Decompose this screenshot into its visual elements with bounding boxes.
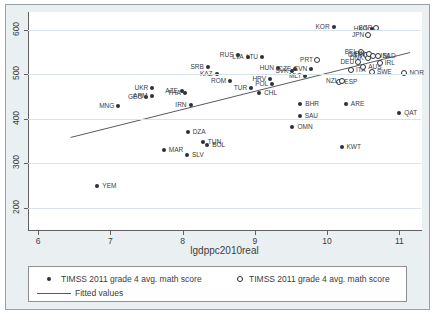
y-tick-mark — [24, 119, 28, 120]
point-label-omn: OMN — [297, 124, 312, 131]
y-tick-label: 300 — [11, 147, 21, 177]
point-label-bol: BOL — [212, 142, 225, 149]
y-tick-mark — [24, 163, 28, 164]
y-tick-mark — [24, 30, 28, 31]
point-label-ukr: UKR — [135, 85, 149, 92]
point-label-irn: IRN — [175, 102, 186, 109]
point-are — [344, 102, 348, 106]
point-label-qat: QAT — [404, 110, 417, 117]
y-gridline — [28, 119, 421, 120]
point-label-lva: LVA — [232, 54, 243, 61]
point-label-nzl: NZL — [326, 78, 338, 85]
y-tick-label: 600 — [11, 14, 21, 44]
point-label-bhr: BHR — [305, 101, 319, 108]
point-label-arm: ARM — [133, 93, 147, 100]
y-tick-label: 200 — [11, 192, 21, 222]
point-kwt — [340, 145, 344, 149]
x-tick-mark — [327, 231, 328, 235]
legend-label-hollow: TIMSS 2011 grade 4 avg. math score — [249, 274, 390, 284]
point-label-esp: ESP — [344, 79, 357, 86]
point-mar — [162, 148, 166, 152]
point-label-tur: TUR — [234, 85, 247, 92]
point-label-kwt: KWT — [347, 144, 361, 151]
point-irl — [377, 60, 383, 66]
hollow-dot-legend-icon — [237, 276, 243, 282]
legend-label-fitted: Fitted values — [75, 288, 123, 298]
legend: TIMSS 2011 grade 4 avg. math score TIMSS… — [28, 266, 407, 302]
point-arm — [150, 94, 154, 98]
point-label-ltu: LTU — [246, 54, 258, 61]
point-qat — [397, 111, 401, 115]
x-axis-title: lgdppc2010real — [28, 245, 421, 256]
point-nzl — [339, 78, 345, 84]
y-tick-label: 500 — [11, 58, 21, 88]
line-legend-icon — [37, 293, 71, 294]
point-label-prt: PRT — [300, 57, 313, 64]
point-label-are: ARE — [351, 101, 364, 108]
x-tick-mark — [399, 231, 400, 235]
point-srb — [206, 65, 210, 69]
screenshot-canvas: YEMMNGGEOARMUKRMARAZETHASLVDZAIRNTUNBOLS… — [0, 0, 434, 320]
x-tick-mark — [38, 231, 39, 235]
point-label-slv: SLV — [192, 152, 204, 159]
y-gridline — [28, 208, 421, 209]
point-label-mng: MNG — [99, 103, 114, 110]
point-label-chl: CHL — [264, 90, 277, 97]
point-svn — [309, 67, 313, 71]
point-aus — [360, 64, 366, 70]
x-tick-mark — [183, 231, 184, 235]
point-kor — [332, 25, 336, 29]
point-rom — [228, 79, 232, 83]
point-label-hun: HUN — [260, 65, 274, 72]
point-label-jpn: JPN — [352, 32, 364, 39]
y-gridline — [28, 74, 421, 75]
point-label-fin: FIN — [355, 51, 365, 58]
point-hrv — [268, 77, 272, 81]
point-label-mar: MAR — [169, 147, 183, 154]
filled-dot-legend-icon — [47, 277, 51, 281]
y-tick-mark — [24, 74, 28, 75]
point-dza — [186, 130, 190, 134]
point-chl — [257, 91, 261, 95]
point-label-tha: THA — [168, 90, 181, 97]
y-gridline — [28, 163, 421, 164]
point-label-dza: DZA — [193, 129, 206, 136]
x-tick-mark — [110, 231, 111, 235]
point-sau — [298, 114, 302, 118]
legend-label-filled: TIMSS 2011 grade 4 avg. math score — [61, 274, 202, 284]
point-label-pol: POL — [255, 81, 268, 88]
y-tick-label: 400 — [11, 103, 21, 133]
point-label-irl: IRL — [385, 60, 395, 67]
point-label-yem: YEM — [102, 183, 116, 190]
x-tick-mark — [255, 231, 256, 235]
legend-row-markers: TIMSS 2011 grade 4 avg. math score TIMSS… — [29, 272, 406, 285]
point-prt — [314, 57, 320, 63]
point-tha — [183, 91, 187, 95]
point-label-rom: ROM — [211, 78, 226, 85]
plot-area — [28, 12, 422, 231]
legend-row-line: Fitted values — [29, 286, 406, 299]
y-tick-mark — [24, 208, 28, 209]
point-irn — [189, 103, 193, 107]
y-gridline — [28, 30, 421, 31]
point-label-svn: SVN — [294, 66, 307, 73]
